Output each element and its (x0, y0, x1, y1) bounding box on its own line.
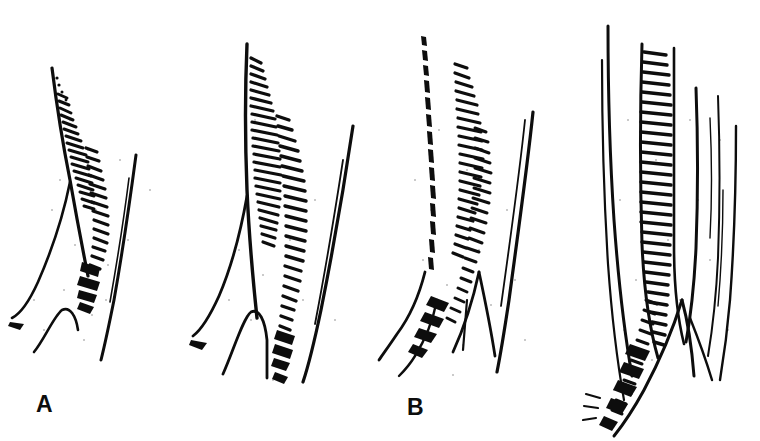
culm-edge-a (110, 178, 129, 302)
culm-line-right-d (686, 88, 698, 342)
cilia-basal-clump-d (599, 344, 650, 431)
sheath-left-curve-b (193, 196, 247, 336)
sheath-left-curve-a (12, 182, 70, 318)
culm-outer-right-d (720, 126, 736, 380)
basal-hook-a (8, 322, 24, 330)
panel-b: B (185, 0, 380, 441)
cilia-basal-clump-b (271, 330, 295, 384)
panel-a: A (0, 0, 190, 441)
cilia-row-primary-b (251, 58, 281, 246)
blade-left-edge-d (602, 60, 624, 400)
branch-fork-right-c (479, 272, 495, 356)
panel-label-a: A (36, 393, 53, 416)
sheath-lobe-a (34, 309, 78, 352)
culm-line-a (101, 155, 136, 360)
basal-hook-b (189, 340, 207, 350)
vein-right-upper-d (710, 118, 712, 238)
sheath-lobe-b (223, 311, 267, 378)
cilia-basal-clump-a (77, 262, 100, 314)
cilia-row-secondary-b (277, 116, 306, 330)
panel-d-drawing (570, 0, 760, 441)
culm-line-c (497, 112, 533, 372)
ligule-left-margin-b (246, 44, 258, 318)
basal-hairs-d (583, 394, 600, 420)
panel-b-drawing (185, 0, 380, 441)
figure-plate: A (0, 0, 760, 441)
panel-a-drawing (0, 0, 190, 441)
panel-d: D (570, 0, 760, 441)
culm-edge-b (315, 160, 343, 324)
panel-c-drawing (375, 0, 575, 441)
panel-b-speckle (228, 119, 336, 381)
panel-c: C (375, 0, 575, 441)
culm-edge-right-d (708, 96, 720, 356)
ligule-left-margin-c (421, 36, 436, 270)
